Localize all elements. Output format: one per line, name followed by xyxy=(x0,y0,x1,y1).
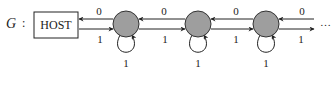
self-loop-n1 xyxy=(118,35,135,52)
host-box: HOST xyxy=(34,12,78,38)
edge-label: 1 xyxy=(162,33,168,45)
self-loop-label: 1 xyxy=(195,57,201,69)
state-diagram: G : HOST 0 1 0 1 0 1 0 1 … 1 1 1 xyxy=(0,0,333,107)
self-loop-label: 1 xyxy=(263,57,269,69)
state-node-2 xyxy=(185,11,211,37)
edge-label: 1 xyxy=(233,33,239,45)
edge-label: 0 xyxy=(161,5,167,17)
continuation-ellipsis: … xyxy=(320,16,331,28)
host-label: HOST xyxy=(40,18,72,32)
edge-label: 0 xyxy=(299,5,305,17)
self-loop-label: 1 xyxy=(123,57,129,69)
state-node-3 xyxy=(253,11,279,37)
state-node-1 xyxy=(113,11,139,37)
self-loop-n2 xyxy=(190,35,207,52)
self-loop-n3 xyxy=(258,35,275,52)
edge-label: 0 xyxy=(233,5,239,17)
graph-label: G xyxy=(6,16,16,31)
edge-label: 1 xyxy=(298,33,304,45)
edge-label: 0 xyxy=(96,5,102,17)
graph-separator: : xyxy=(22,16,25,30)
edge-label: 1 xyxy=(97,33,103,45)
